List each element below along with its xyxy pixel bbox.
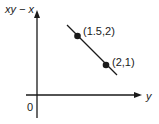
data-point-1: [74, 33, 81, 40]
point-2-label: (2,1): [112, 56, 135, 68]
x-axis-label: y: [145, 90, 153, 102]
y-axis-label: xy − x: [4, 3, 35, 15]
horizontal-axis-arrow-icon: [134, 92, 142, 98]
point-1-label: (1.5,2): [83, 25, 115, 37]
data-point-2: [103, 62, 110, 69]
origin-label: 0: [27, 101, 33, 113]
vertical-axis-arrow-icon: [34, 10, 40, 18]
chart-canvas: xy − x y 0 (1.5,2) (2,1): [0, 0, 159, 124]
